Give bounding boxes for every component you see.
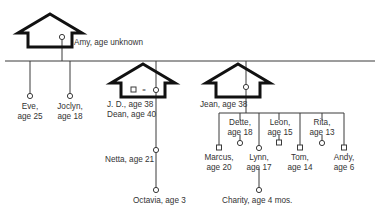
jean-label: Jean, age 38 (200, 100, 247, 110)
jean-house-icon (206, 64, 270, 97)
lynn-label: Lynn, age 17 (246, 153, 271, 173)
octavia-female-icon (153, 187, 158, 192)
partner-equals-icon: = (142, 87, 146, 93)
jd-female-icon (153, 87, 158, 92)
rita-female-icon (319, 140, 324, 145)
andy-male-icon (342, 145, 347, 150)
andy-label: Andy, age 6 (334, 153, 355, 173)
leon-male-icon (277, 140, 282, 145)
netta-label: Netta, age 21 (105, 155, 154, 165)
genogram-canvas: = (0, 0, 375, 222)
charity-label: Charity, age 4 mos. (222, 196, 292, 206)
amy-label: Amy, age unknown (74, 38, 143, 48)
netta-female-icon (153, 147, 158, 152)
charity-female-icon (256, 187, 261, 192)
amy-female-icon (59, 34, 64, 39)
eve-label: Eve, age 25 (17, 102, 42, 122)
lynn-female-icon (256, 145, 261, 150)
rita-label: Rita, age 13 (309, 118, 334, 138)
leon-label: Leon, age 15 (267, 118, 292, 138)
dette-label: Dette, age 18 (227, 118, 252, 138)
dean-label: Dean, age 40 (107, 110, 156, 120)
dette-female-icon (237, 140, 242, 145)
octavia-label: Octavia, age 3 (133, 196, 186, 206)
eve-female-icon (27, 93, 32, 98)
amy-house-icon (18, 14, 82, 47)
jd-label: J. D., age 38 (107, 100, 153, 110)
marcus-male-icon (217, 145, 222, 150)
tom-label: Tom, age 14 (287, 153, 312, 173)
dean-male-icon (131, 87, 136, 92)
marcus-label: Marcus, age 20 (204, 153, 233, 173)
jean-female-icon (243, 84, 248, 89)
joclyn-label: Joclyn, age 18 (57, 102, 82, 122)
tom-male-icon (298, 145, 303, 150)
joclyn-female-icon (67, 93, 72, 98)
